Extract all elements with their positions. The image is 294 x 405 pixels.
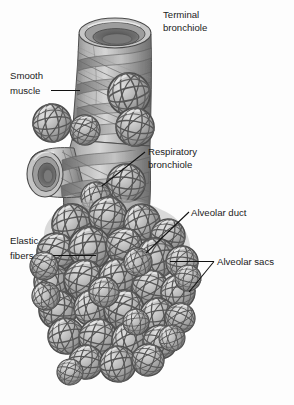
label-alveolar-duct-text: Alveolar duct xyxy=(191,207,247,218)
label-alveolar-sacs-text: Alveolar sacs xyxy=(217,256,274,267)
label-smooth-muscle-line1: Smooth xyxy=(10,70,43,81)
label-elastic-fibers-line2: fibers xyxy=(10,250,34,261)
label-smooth-muscle-line2: muscle xyxy=(10,85,40,96)
label-elastic-fibers-line1: Elastic xyxy=(10,235,38,246)
label-terminal-bronchiole-line1: Terminal xyxy=(163,9,199,20)
label-respiratory-bronchiole-line2: bronchiole xyxy=(148,159,192,170)
label-terminal-bronchiole-line2: bronchiole xyxy=(163,22,207,33)
anatomy-figure: Terminal bronchiole Smooth muscle Respir… xyxy=(0,0,294,405)
label-respiratory-bronchiole-line1: Respiratory xyxy=(148,146,197,157)
